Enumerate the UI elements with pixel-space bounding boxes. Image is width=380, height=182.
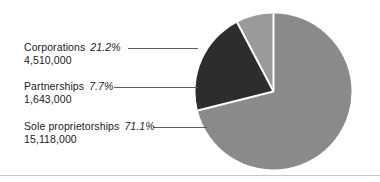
- slice-label-sole-proprietorships-count: 15,118,000: [24, 133, 155, 146]
- slice-label-partnerships-name: Partnerships: [24, 80, 84, 92]
- slice-label-partnerships-percent: 7.7%: [89, 80, 113, 92]
- leader-line-sole-proprietorships: [153, 127, 207, 128]
- pie-chart-figure: Corporations21.2% 4,510,000 Partnerships…: [0, 0, 380, 182]
- slice-label-sole-proprietorships: Sole proprietorships71.1% 15,118,000: [24, 120, 155, 146]
- slice-label-corporations-percent: 21.2%: [90, 41, 120, 53]
- leader-line-corporations: [128, 48, 198, 49]
- pie-svg: [195, 13, 352, 170]
- leader-line-partnerships: [114, 87, 198, 88]
- slice-label-partnerships-line1: Partnerships7.7%: [24, 80, 114, 93]
- slice-label-sole-proprietorships-name: Sole proprietorships: [24, 120, 119, 132]
- slice-label-sole-proprietorships-line1: Sole proprietorships71.1%: [24, 120, 155, 133]
- pie-chart: [195, 13, 352, 170]
- slice-label-corporations-name: Corporations: [24, 41, 85, 53]
- bottom-divider: [0, 175, 380, 176]
- slice-label-corporations-line1: Corporations21.2%: [24, 41, 121, 54]
- slice-label-partnerships-count: 1,643,000: [24, 93, 114, 106]
- slice-label-sole-proprietorships-percent: 71.1%: [124, 120, 154, 132]
- slice-label-partnerships: Partnerships7.7% 1,643,000: [24, 80, 114, 106]
- slice-label-corporations: Corporations21.2% 4,510,000: [24, 41, 121, 67]
- slice-label-corporations-count: 4,510,000: [24, 54, 121, 67]
